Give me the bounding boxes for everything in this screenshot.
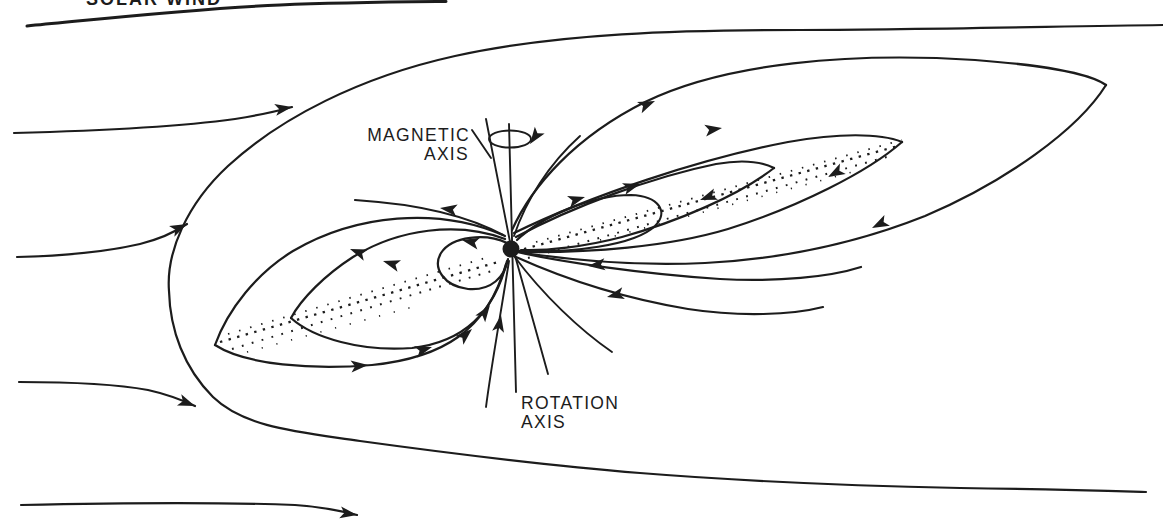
arrowhead-icon bbox=[381, 255, 401, 271]
solar-wind-streamline-3 bbox=[19, 382, 195, 406]
arrowhead-icon bbox=[177, 394, 197, 411]
magnetosphere-diagram-canvas: SOLAR WIND bbox=[0, 0, 1163, 530]
magnetopause-boundary bbox=[169, 25, 1163, 492]
rotation-axis-label-line2: AXIS bbox=[521, 412, 566, 432]
solar-wind-label: SOLAR WIND bbox=[86, 0, 222, 9]
arrowhead-icon bbox=[825, 164, 846, 183]
magnetopause-bottom bbox=[169, 291, 1146, 492]
plasma-sheet-left-scatter-3 bbox=[247, 305, 420, 352]
field-line-left-middle-bottom bbox=[291, 261, 507, 349]
magnetic-axis-label-line1: MAGNETIC bbox=[367, 125, 470, 145]
magnetopause-top bbox=[169, 25, 1163, 291]
plasma-sheet-right-scatter-2 bbox=[536, 140, 902, 242]
rotation-axis-label-line1: ROTATION bbox=[521, 393, 619, 413]
field-line-tail-outer-top bbox=[512, 58, 1106, 230]
south-polar-line-below bbox=[486, 261, 509, 407]
planet-dot bbox=[503, 241, 520, 258]
solar-wind-streamline-4 bbox=[21, 503, 357, 515]
plasma-sheet-dotted-band bbox=[220, 140, 902, 352]
solar-wind-streamline-2 bbox=[17, 224, 187, 257]
magnetosphere-figure: SOLAR WIND bbox=[0, 0, 1163, 530]
plasma-sheet-left-scatter-2 bbox=[228, 256, 492, 334]
rotation-axis: ROTATION AXIS bbox=[489, 124, 619, 432]
arrowhead-icon bbox=[704, 122, 723, 137]
plasma-sheet-left-scatter-1 bbox=[232, 270, 495, 349]
solar-wind-streamline-1 bbox=[14, 107, 292, 133]
field-lines-tail bbox=[512, 58, 1106, 315]
field-line-tail-open-2 bbox=[516, 257, 823, 314]
magnetic-axis-label-line2: AXIS bbox=[424, 144, 469, 164]
field-line-tail-outer-bottom bbox=[524, 85, 1106, 264]
field-line-tail-open-1 bbox=[517, 252, 861, 280]
